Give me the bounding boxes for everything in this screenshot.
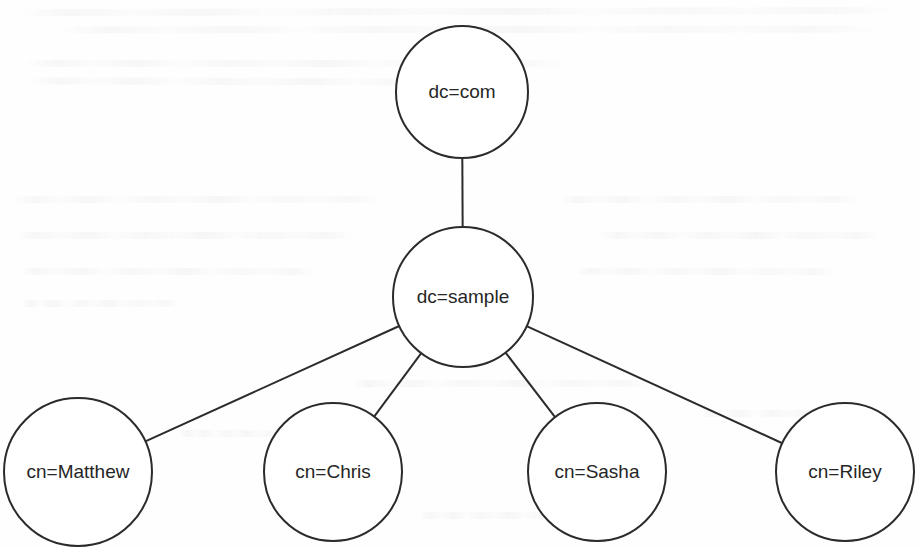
tree-node-riley[interactable]: cn=Riley xyxy=(776,403,914,541)
node-label-riley: cn=Riley xyxy=(808,461,882,482)
tree-node-root[interactable]: dc=com xyxy=(396,26,528,158)
tree-node-chris[interactable]: cn=Chris xyxy=(264,403,402,541)
node-label-sasha: cn=Sasha xyxy=(554,461,639,482)
tree-node-sasha[interactable]: cn=Sasha xyxy=(528,403,666,541)
node-label-chris: cn=Chris xyxy=(295,461,371,482)
tree-node-matthew[interactable]: cn=Matthew xyxy=(4,398,152,546)
ldap-tree-diagram: dc=comdc=samplecn=Matthewcn=Chriscn=Sash… xyxy=(0,0,921,548)
node-label-matthew: cn=Matthew xyxy=(27,461,130,482)
node-label-root: dc=com xyxy=(428,81,495,102)
tree-graph-canvas: dc=comdc=samplecn=Matthewcn=Chriscn=Sash… xyxy=(0,0,921,548)
edge-sample-chris xyxy=(374,353,421,416)
edge-sample-sasha xyxy=(506,353,555,418)
tree-node-sample[interactable]: dc=sample xyxy=(393,227,533,367)
node-label-sample: dc=sample xyxy=(417,286,509,307)
nodes-layer: dc=comdc=samplecn=Matthewcn=Chriscn=Sash… xyxy=(4,26,914,546)
